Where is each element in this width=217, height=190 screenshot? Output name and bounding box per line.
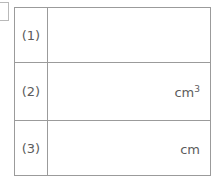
unit-label-2: cm3: [174, 86, 210, 99]
answer-cell-2[interactable]: cm3: [48, 63, 211, 121]
table-row: (3) cm: [15, 121, 211, 176]
row-label-2: (2): [15, 85, 47, 98]
unit-base-2: cm: [174, 85, 194, 100]
table-row: (2) cm3: [15, 63, 211, 121]
row-label-cell-3: (3): [15, 121, 48, 176]
row-label-cell-1: (1): [15, 8, 48, 63]
unit-exponent-2: 3: [194, 84, 200, 94]
table-row: (1): [15, 8, 211, 63]
cropped-answer-box: [0, 2, 9, 21]
unit-label-3: cm: [180, 143, 210, 156]
unit-base-3: cm: [180, 142, 200, 157]
row-label-1: (1): [15, 29, 47, 42]
answer-cell-3[interactable]: cm: [48, 121, 211, 176]
row-label-cell-2: (2): [15, 63, 48, 121]
answer-table-body: (1) (2) cm3 (3) cm: [15, 8, 211, 176]
answer-table: (1) (2) cm3 (3) cm: [14, 7, 211, 176]
row-label-3: (3): [15, 142, 47, 155]
answer-input-1[interactable]: [48, 8, 210, 62]
answer-cell-1[interactable]: [48, 8, 211, 63]
